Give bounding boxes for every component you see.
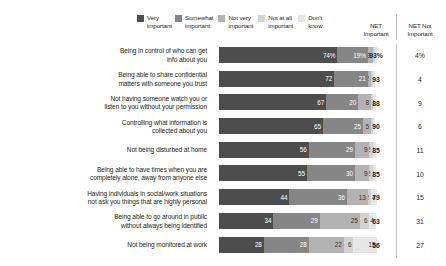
chart-row: Controlling what information is collecte… [0, 115, 446, 139]
row-bar: 6525511 [219, 118, 379, 134]
bar-segment: 20 [326, 94, 358, 110]
net-not-important-value: 10 [400, 162, 440, 186]
row-label: Being able to have times when you are co… [0, 162, 213, 186]
net-not-important-value: 11 [400, 139, 440, 163]
net-important-value: 63 [358, 210, 394, 234]
chart-legend: Very importantSomewhat importantNot very… [137, 14, 309, 40]
row-bar: 44361324 [219, 189, 379, 205]
net-important-value: 85 [358, 139, 394, 163]
legend-label-not_at_all_important: Not at all important [268, 14, 293, 30]
row-bar: 74%19%311 [219, 47, 379, 63]
row-label: Not being disturbed at home [0, 139, 213, 163]
row-label: Controlling what information is collecte… [0, 115, 213, 139]
legend-item-dont_know[interactable]: Don't know [298, 14, 322, 30]
row-bar: 6720812 [219, 94, 379, 110]
chart-row: Not being disturbed at home56299228511 [0, 139, 446, 163]
net-important-value: 79 [358, 186, 394, 210]
bar-segment: 28 [219, 237, 264, 253]
net-important-value: 56 [358, 234, 394, 258]
legend-swatch-not_very_important [218, 15, 225, 22]
net-not-important-value: 27 [400, 234, 440, 258]
net-important-value: 93 [358, 68, 394, 92]
chart-row: Not having someone watch you or listen t… [0, 91, 446, 115]
bar-segment: 56 [219, 142, 309, 158]
net-important-value: 85 [358, 162, 394, 186]
bar-segment: 36 [289, 189, 347, 205]
row-label: Having individuals in social/work situat… [0, 186, 213, 210]
legend-item-somewhat_important[interactable]: Somewhat important [175, 14, 213, 30]
bar-segment: 29 [309, 142, 355, 158]
row-label: Being able to share confidential matters… [0, 68, 213, 92]
net-important-header: NET Important [358, 22, 394, 38]
net-important-value: 90 [358, 115, 394, 139]
row-label: Not being monitored at work [0, 234, 213, 258]
bar-segment: 65 [219, 118, 323, 134]
bar-segment: 72 [219, 71, 334, 87]
net-not-important-value: 9 [400, 91, 440, 115]
bar-segment: 28 [264, 237, 309, 253]
chart-row: Being able to have times when you are co… [0, 162, 446, 186]
bar-segment: 34 [219, 213, 273, 229]
bar-segment: 22 [309, 237, 344, 253]
chart-row: Having individuals in social/work situat… [0, 186, 446, 210]
legend-label-dont_know: Don't know [308, 14, 322, 30]
legend-swatch-dont_know [298, 15, 305, 22]
row-bar: 5530922 [219, 165, 379, 181]
net-not-important-value: 31 [400, 210, 440, 234]
legend-swatch-somewhat_important [175, 15, 182, 22]
net-important-value: 88 [358, 91, 394, 115]
chart-row: Being able to share confidential matters… [0, 68, 446, 92]
bar-segment: 25 [320, 213, 360, 229]
chart-rows: Being in control of who can get info abo… [0, 44, 446, 257]
net-not-important-value: 15 [400, 186, 440, 210]
row-bar: 7221211 [219, 71, 379, 87]
bar-segment: 74% [219, 47, 337, 63]
row-label: Not having someone watch you or listen t… [0, 91, 213, 115]
chart-row: Being able to go around in public withou… [0, 210, 446, 234]
bar-segment: 67 [219, 94, 326, 110]
bar-segment: 29 [273, 213, 319, 229]
legend-label-very_important: Very important [147, 14, 172, 30]
bar-segment: 6 [344, 237, 354, 253]
chart-row: Being in control of who can get info abo… [0, 44, 446, 68]
bar-segment: 30 [307, 165, 355, 181]
header-divider [396, 14, 397, 40]
legend-label-somewhat_important: Somewhat important [185, 14, 213, 30]
row-label: Being in control of who can get info abo… [0, 44, 213, 68]
bar-segment: 44 [219, 189, 289, 205]
bar-segment: 25 [323, 118, 363, 134]
stacked-bar-chart: Very importantSomewhat importantNot very… [0, 0, 446, 266]
net-important-value: 93% [358, 44, 394, 68]
row-bar: 282822615 [219, 237, 379, 253]
legend-item-not_at_all_important[interactable]: Not at all important [258, 14, 293, 30]
legend-label-not_very_important: Not very important [228, 14, 253, 30]
row-label: Being able to go around in public withou… [0, 210, 213, 234]
legend-item-not_very_important[interactable]: Not very important [218, 14, 253, 30]
bar-segment: 55 [219, 165, 307, 181]
chart-row: Not being monitored at work2828226155627 [0, 234, 446, 258]
row-bar: 5629922 [219, 142, 379, 158]
row-bar: 34292564 [219, 213, 379, 229]
legend-item-very_important[interactable]: Very important [137, 14, 170, 30]
legend-swatch-not_at_all_important [258, 15, 265, 22]
net-not-important-value: 4% [400, 44, 440, 68]
net-not-important-header: NET Not Important [400, 22, 440, 38]
legend-swatch-very_important [137, 15, 144, 22]
net-not-important-value: 6 [400, 115, 440, 139]
net-not-important-value: 4 [400, 68, 440, 92]
